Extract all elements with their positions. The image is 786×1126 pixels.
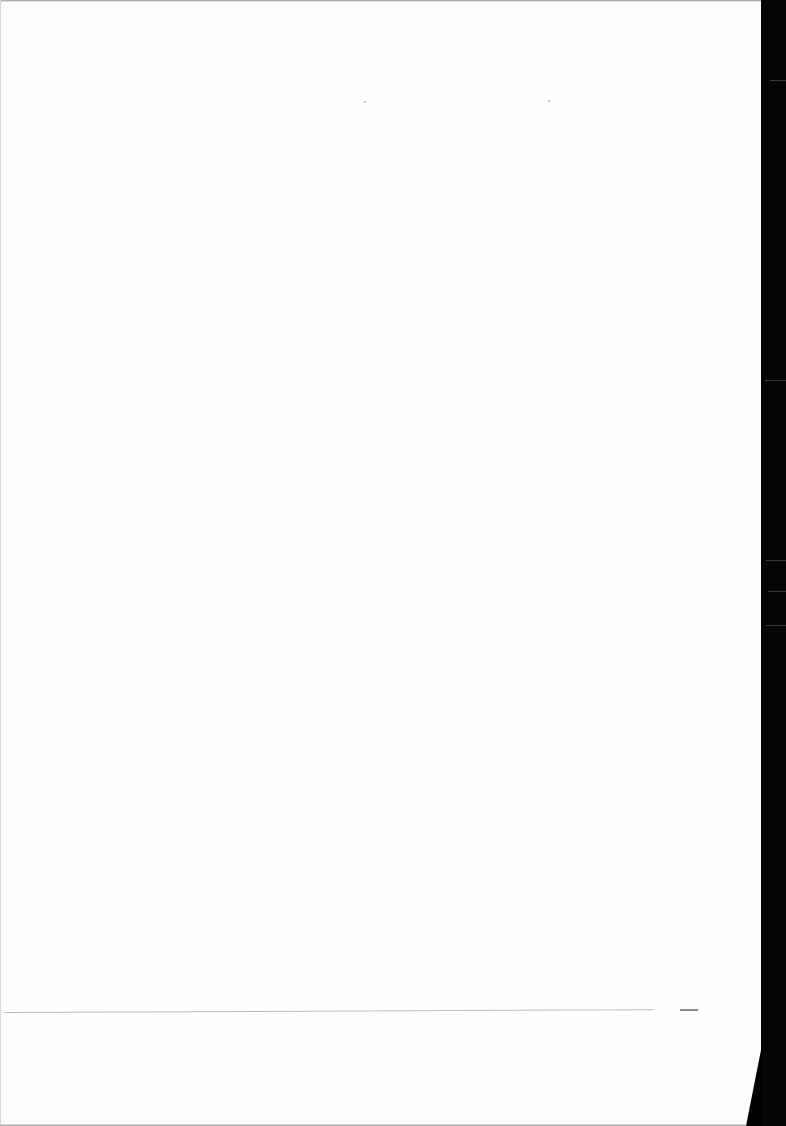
border-artifact [770,80,786,81]
border-artifact [768,591,786,592]
page-left-edge [0,0,1,1126]
border-artifact [766,560,786,561]
scan-speck [548,100,550,102]
rule-dash [680,1009,698,1011]
border-artifact [765,380,786,381]
horizontal-rule [4,1009,654,1013]
border-artifact [766,625,786,626]
page-top-edge [0,0,761,2]
scanned-page [0,0,786,1126]
scan-border-right [761,0,786,1126]
scan-speck [364,101,366,103]
